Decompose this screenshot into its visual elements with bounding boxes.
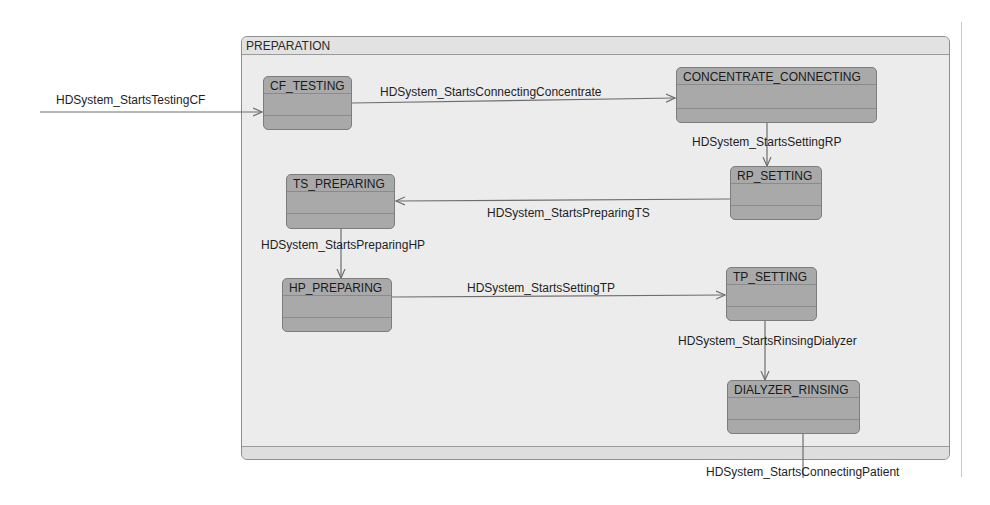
state-divider (677, 108, 876, 109)
transition-label-starts-connecting-patient: HDSystem_StartsConnectingPatient (706, 465, 899, 479)
state-cf-testing[interactable]: CF_TESTING (263, 76, 352, 130)
transition-label-starts-preparing-ts: HDSystem_StartsPreparingTS (487, 206, 650, 220)
state-divider (731, 183, 821, 184)
state-name: TP_SETTING (733, 270, 807, 284)
edge-to-tp-setting (391, 295, 725, 297)
state-divider (264, 93, 351, 94)
state-divider (728, 397, 859, 398)
state-divider (287, 191, 394, 192)
state-hp-preparing[interactable]: HP_PREPARING (282, 278, 392, 332)
state-divider (283, 295, 391, 296)
transition-label-starts-setting-rp: HDSystem_StartsSettingRP (692, 135, 841, 149)
edge-to-ts-preparing (396, 199, 730, 201)
transition-label-starts-connecting-concentrate: HDSystem_StartsConnectingConcentrate (380, 85, 601, 99)
state-divider (264, 115, 351, 116)
transition-label-starts-setting-tp: HDSystem_StartsSettingTP (467, 281, 615, 295)
state-name: DIALYZER_RINSING (734, 383, 848, 397)
state-ts-preparing[interactable]: TS_PREPARING (286, 174, 395, 229)
transition-label-starts-preparing-hp: HDSystem_StartsPreparingHP (261, 238, 425, 252)
state-name: RP_SETTING (737, 169, 812, 183)
state-divider (727, 306, 816, 307)
state-name: CONCENTRATE_CONNECTING (683, 70, 861, 84)
state-divider (283, 317, 391, 318)
transition-label-starts-rinsing-dialyzer: HDSystem_StartsRinsingDialyzer (678, 334, 857, 348)
state-divider (728, 419, 859, 420)
state-divider (727, 284, 816, 285)
state-name: TS_PREPARING (293, 177, 385, 191)
transition-label-starts-testing-cf: HDSystem_StartsTestingCF (56, 93, 205, 107)
state-divider (731, 205, 821, 206)
state-dialyzer-rinsing[interactable]: DIALYZER_RINSING (727, 380, 860, 434)
state-concentrate-connecting[interactable]: CONCENTRATE_CONNECTING (676, 67, 877, 123)
state-rp-setting[interactable]: RP_SETTING (730, 166, 822, 220)
state-divider (287, 213, 394, 214)
state-tp-setting[interactable]: TP_SETTING (726, 267, 817, 321)
state-name: CF_TESTING (270, 79, 345, 93)
state-divider (677, 84, 876, 85)
state-name: HP_PREPARING (289, 281, 382, 295)
